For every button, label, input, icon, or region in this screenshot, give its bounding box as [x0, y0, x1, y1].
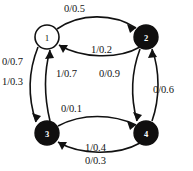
edge-label-4-to-2: 0/0.6 — [153, 84, 174, 95]
node-1-label: 1 — [45, 33, 50, 43]
edge-label-2-to-1: 1/0.2 — [91, 44, 112, 55]
edge-label-1-to-3-b: 1/0.3 — [2, 76, 23, 87]
edge-label-3-to-1: 1/0.7 — [56, 68, 77, 79]
node-4[interactable]: 4 — [134, 121, 158, 145]
edge-path-1-to-2 — [57, 17, 136, 29]
edge-label-3-to-4: 0/0.1 — [61, 103, 82, 114]
node-2[interactable]: 2 — [134, 25, 158, 49]
edge-1-to-2 — [57, 17, 136, 33]
edge-path-1-to-3 — [30, 47, 38, 122]
arrow-head-into-node-3-from-1 — [32, 113, 41, 122]
edge-3-to-4 — [58, 117, 136, 131]
edge-3-to-1 — [45, 50, 54, 121]
arrow-head-into-node-1-from-3 — [45, 50, 54, 59]
edge-label-2-to-4: 0/0.9 — [99, 68, 120, 79]
node-2-label: 2 — [144, 33, 148, 43]
edge-label-4-to-3-a: 1/0.4 — [85, 142, 106, 153]
arrow-head-into-node-2-from-4 — [148, 49, 157, 58]
edge-path-3-to-4 — [58, 117, 136, 127]
edge-label-4-to-3-b: 0/0.3 — [85, 155, 106, 166]
edge-2-to-4 — [133, 49, 142, 121]
node-3[interactable]: 3 — [35, 121, 59, 145]
edge-path-2-to-4 — [133, 49, 140, 121]
state-transition-diagram: 1 2 3 4 0/0.5 1/0.2 0/0.7 1/0.3 1/0.7 0/… — [0, 0, 193, 171]
node-3-label: 3 — [45, 129, 49, 139]
edge-path-3-to-1 — [46, 50, 51, 121]
edge-label-1-to-3-a: 0/0.7 — [2, 56, 23, 67]
arrow-head-into-node-4-from-2 — [133, 112, 142, 121]
node-1[interactable]: 1 — [35, 25, 59, 49]
edge-label-1-to-2: 0/0.5 — [64, 3, 85, 14]
edge-1-to-3 — [30, 47, 41, 122]
